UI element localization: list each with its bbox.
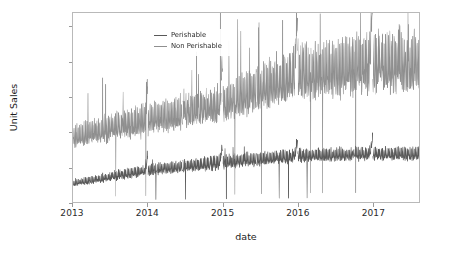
- chart-legend: Perishable Non Perishable: [151, 29, 233, 56]
- legend-item-non-perishable: Non Perishable: [154, 42, 230, 51]
- x-tick-label: 2016: [286, 208, 309, 218]
- x-tick-mark: [72, 203, 73, 207]
- legend-label-perishable: Perishable: [171, 31, 206, 40]
- x-tick-mark: [298, 203, 299, 207]
- plot-area: Perishable Non Perishable: [72, 12, 420, 203]
- x-tick-label: 2014: [136, 208, 159, 218]
- x-tick-label: 2015: [211, 208, 234, 218]
- x-axis-label-text: date: [235, 231, 256, 242]
- series-canvas: [73, 13, 419, 202]
- x-tick-mark: [223, 203, 224, 207]
- legend-item-perishable: Perishable: [154, 31, 230, 40]
- x-tick-mark: [373, 203, 374, 207]
- x-axis-label: date: [72, 231, 420, 242]
- y-axis-label: Unit Sales: [7, 12, 21, 203]
- x-tick-label: 2017: [362, 208, 385, 218]
- legend-label-non-perishable: Non Perishable: [171, 42, 222, 51]
- chart-figure: Unit Sales 02000004000006000008000001000…: [0, 0, 450, 258]
- y-axis-label-text: Unit Sales: [9, 84, 20, 132]
- legend-swatch-perishable: [154, 35, 167, 36]
- x-tick-label: 2013: [60, 208, 83, 218]
- legend-swatch-non-perishable: [154, 46, 167, 47]
- x-tick-mark: [147, 203, 148, 207]
